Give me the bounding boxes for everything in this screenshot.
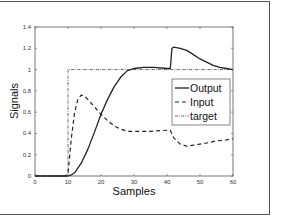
x-tick-label: 10 xyxy=(65,179,72,185)
legend-label-output: Output xyxy=(190,82,222,94)
y-tick-label: 1 xyxy=(28,67,32,73)
x-tick-label: 50 xyxy=(197,179,204,185)
y-tick-label: 1.4 xyxy=(23,24,32,30)
y-tick-label: 0.6 xyxy=(23,109,32,115)
y-tick-label: 0.4 xyxy=(23,130,32,136)
y-tick-label: 0.2 xyxy=(23,152,32,158)
x-axis-title: Samples xyxy=(113,185,156,197)
legend-label-target: target xyxy=(190,110,217,122)
x-tick-label: 40 xyxy=(164,179,171,185)
x-tick-label: 60 xyxy=(230,179,237,185)
line-chart: 0102030405060 00.20.40.60.811.21.4 Sampl… xyxy=(0,0,281,221)
legend-label-input: Input xyxy=(190,96,213,108)
y-axis-title: Signals xyxy=(8,82,20,119)
y-tick-label: 1.2 xyxy=(23,45,32,51)
x-tick-label: 0 xyxy=(33,179,37,185)
legend: OutputInputtarget xyxy=(172,79,230,125)
x-tick-label: 20 xyxy=(98,179,105,185)
y-tick-label: 0 xyxy=(28,173,32,179)
y-tick-label: 0.8 xyxy=(23,88,32,94)
